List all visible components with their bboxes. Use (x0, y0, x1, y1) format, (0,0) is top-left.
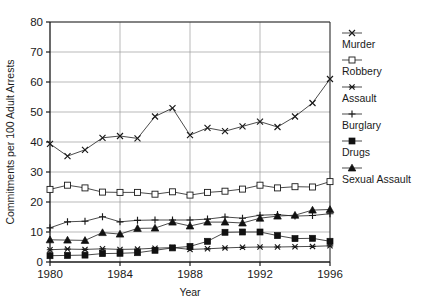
data-point-robbery (275, 185, 281, 191)
legend-marker-drugs (349, 138, 355, 144)
data-point-robbery (310, 184, 316, 190)
data-point-drugs (257, 229, 263, 235)
data-point-murder (240, 123, 246, 129)
data-point-sexual-assault (151, 224, 159, 231)
y-tick-label: 50 (30, 106, 43, 118)
data-point-assault (239, 245, 245, 250)
data-point-robbery (222, 188, 228, 194)
data-point-drugs (135, 250, 141, 256)
legend-label-murder[interactable]: Murder (342, 38, 376, 50)
data-point-burglary (99, 213, 106, 220)
y-tick-label: 20 (30, 196, 43, 208)
data-point-murder (152, 114, 158, 120)
data-point-assault (222, 245, 228, 250)
y-tick-label: 70 (30, 46, 43, 58)
data-point-drugs (205, 238, 211, 244)
data-point-robbery (82, 185, 88, 191)
data-point-robbery (152, 191, 158, 197)
data-point-drugs (240, 229, 246, 235)
x-tick-label: 1984 (107, 268, 133, 280)
data-point-murder (310, 100, 316, 106)
page-bottom-artifact (0, 296, 427, 306)
x-tick-label: 1996 (317, 268, 343, 280)
data-point-murder (65, 153, 71, 159)
legend-marker-burglary (349, 111, 356, 118)
data-point-drugs (275, 233, 281, 239)
legend-label-robbery[interactable]: Robbery (342, 65, 382, 77)
data-point-assault (274, 244, 280, 249)
legend-marker-robbery (349, 57, 355, 63)
y-axis-title: Commitments per 100 Adult Arrests (4, 59, 16, 224)
data-point-sexual-assault (169, 218, 177, 225)
y-tick-label: 40 (30, 136, 43, 148)
x-tick-label: 1988 (177, 268, 203, 280)
legend-marker-assault (349, 84, 355, 89)
data-point-robbery (117, 189, 123, 195)
data-point-burglary (134, 217, 141, 224)
data-point-murder (275, 124, 281, 130)
data-point-sexual-assault (326, 206, 334, 213)
data-point-sexual-assault (46, 236, 54, 243)
chart-figure: 0102030405060708019801984198819921996Yea… (0, 0, 427, 306)
data-point-drugs (152, 247, 158, 253)
legend-label-burglary[interactable]: Burglary (342, 119, 382, 131)
legend-label-assault[interactable]: Assault (342, 92, 377, 104)
y-tick-label: 60 (30, 76, 43, 88)
data-point-murder (292, 114, 298, 120)
data-point-assault (309, 244, 315, 249)
data-point-assault (64, 247, 70, 252)
data-point-robbery (187, 192, 193, 198)
legend-label-sexual-assault[interactable]: Sexual Assault (342, 173, 411, 185)
data-point-robbery (170, 189, 176, 195)
data-point-burglary (82, 218, 89, 225)
data-point-robbery (47, 186, 53, 192)
data-point-drugs (47, 253, 53, 259)
data-point-assault (82, 247, 88, 252)
data-point-burglary (117, 218, 124, 225)
data-point-drugs (117, 250, 123, 256)
y-tick-label: 0 (37, 256, 43, 268)
data-point-drugs (292, 236, 298, 242)
data-point-drugs (170, 245, 176, 251)
data-point-robbery (100, 189, 106, 195)
data-point-robbery (257, 182, 263, 188)
data-point-robbery (240, 186, 246, 192)
data-point-drugs (82, 252, 88, 258)
data-point-burglary (64, 218, 71, 225)
data-point-burglary (47, 224, 54, 231)
data-point-robbery (135, 189, 141, 195)
data-point-drugs (100, 251, 106, 257)
data-point-robbery (65, 182, 71, 188)
data-point-burglary (152, 217, 159, 224)
legend-label-drugs[interactable]: Drugs (342, 146, 370, 158)
data-point-robbery (327, 179, 333, 185)
data-point-murder (170, 105, 176, 111)
data-point-drugs (187, 243, 193, 249)
data-point-murder (82, 147, 88, 153)
line-chart: 0102030405060708019801984198819921996Yea… (0, 0, 427, 306)
data-point-robbery (292, 184, 298, 190)
y-tick-label: 30 (30, 166, 43, 178)
data-point-drugs (222, 229, 228, 235)
x-tick-label: 1980 (37, 268, 63, 280)
data-point-drugs (65, 252, 71, 258)
data-point-assault (292, 244, 298, 249)
y-tick-label: 80 (30, 16, 43, 28)
data-point-robbery (205, 189, 211, 195)
data-point-assault (204, 246, 210, 251)
data-point-drugs (310, 235, 316, 241)
y-tick-label: 10 (30, 226, 43, 238)
data-point-drugs (327, 238, 333, 244)
x-tick-label: 1992 (247, 268, 273, 280)
